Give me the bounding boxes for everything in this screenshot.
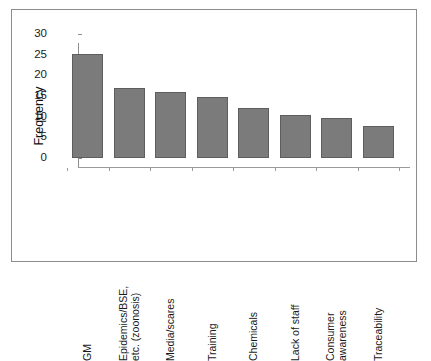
x-axis-tick [399,168,400,171]
x-axis-category-label-line: Consumer [324,313,336,361]
x-axis-tick [275,168,276,171]
x-axis-tick [109,168,110,171]
y-axis-tick-label: 20 [7,70,47,82]
bar [363,126,394,158]
x-axis-line [78,167,410,168]
y-axis-tick-label: 30 [7,28,47,40]
x-axis-category-label-line: Media/scares [164,299,176,361]
x-axis-tick [316,168,317,171]
x-axis-category-label-line: Chemicals [247,312,259,361]
x-axis-tick [358,168,359,171]
x-axis-tick [150,168,151,171]
bar [280,115,311,158]
figure-frame: Frequency 051015202530 GMEpidemics/BSE,e… [11,9,417,262]
y-axis-tick-label: 25 [7,49,47,61]
y-axis-tick [78,34,82,35]
x-axis-category-label-line: GM [81,344,93,361]
x-axis-category-label-line: awareness [336,267,348,361]
x-axis-tick [192,168,193,171]
bar [155,92,186,158]
y-axis-tick-label: 10 [7,111,47,123]
bar [114,88,145,158]
x-axis-category-label-line: Training [206,323,218,361]
y-axis-tick-label: 5 [7,132,47,144]
x-axis-tick [233,168,234,171]
y-axis-tick-label: 15 [7,90,47,102]
bar [72,54,103,158]
x-axis-category-label-line: Epidemics/BSE, [117,286,129,361]
x-axis-category-label-line: Traceability [372,308,384,361]
x-axis-tick [67,168,68,171]
x-axis-category-label-line: etc. (zoonosis) [129,267,141,361]
x-axis-category-label-line: Lack of staff [289,305,301,361]
bar [238,108,269,158]
y-axis-tick-label: 0 [7,152,47,164]
bar [321,118,352,158]
y-axis-tick [78,158,82,159]
bar [197,97,228,158]
